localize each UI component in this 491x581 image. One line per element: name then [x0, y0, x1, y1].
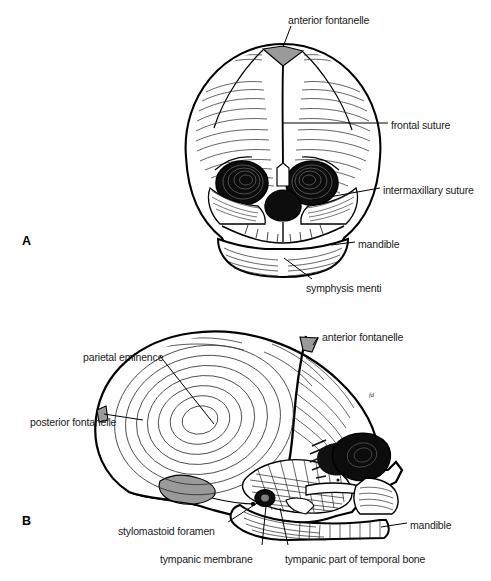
anterior-fontanelle-shape-lateral	[300, 337, 318, 352]
artist-signature-mark: fd	[369, 391, 374, 398]
panel-letter-a: A	[22, 234, 31, 248]
label-symphysis-menti: symphysis menti	[306, 282, 381, 294]
label-mandible-b: mandible	[410, 519, 451, 531]
label-anterior-fontanelle-a: anterior fontanelle	[288, 14, 369, 26]
label-posterior-fontanelle: posterior fontanelle	[30, 416, 116, 428]
infraorbital-foramen	[337, 479, 340, 482]
label-anterior-fontanelle-b: anterior fontanelle	[322, 331, 403, 343]
piriform-aperture	[265, 190, 301, 221]
panel-letter-b: B	[22, 514, 31, 528]
label-stylomastoid-foramen: stylomastoid foramen	[118, 525, 215, 537]
label-parietal-eminence: parietal eminence	[83, 351, 163, 363]
anatomy-figure: anterior fontanelle frontal suture inter…	[0, 0, 491, 581]
label-intermaxillary-suture: intermaxillary suture	[383, 184, 474, 196]
label-tympanic-part-of-temporal-bone: tympanic part of temporal bone	[285, 553, 425, 565]
orbit-lateral	[332, 433, 390, 481]
skull-illustration	[0, 0, 491, 581]
nasal-bones	[277, 163, 289, 186]
label-frontal-suture: frontal suture	[391, 119, 450, 131]
label-tympanic-membrane: tympanic membrane	[160, 553, 253, 565]
label-mandible-a: mandible	[358, 238, 399, 250]
